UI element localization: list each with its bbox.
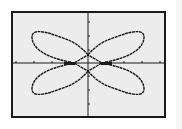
petal-lower-right [88,63,144,94]
petal-upper-right [88,32,144,63]
left-cusp-mark [64,62,75,65]
right-cusp-mark [101,62,112,65]
plot-area [0,0,182,129]
petal-lower-left [32,63,88,94]
petal-upper-left [32,32,88,63]
